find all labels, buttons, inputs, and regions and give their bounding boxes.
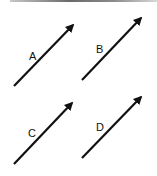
arrow-d: D [82, 97, 141, 158]
arrow-c-line [14, 103, 72, 164]
arrow-b-line [82, 18, 141, 80]
arrow-b: B [82, 18, 141, 80]
arrow-a-label: A [29, 50, 37, 62]
arrow-b-label: B [96, 43, 103, 55]
arrow-d-line [82, 97, 141, 158]
arrow-a: A [14, 25, 73, 86]
arrow-d-label: D [96, 121, 104, 133]
arrow-a-line [14, 25, 73, 86]
arrow-diagram: A B C D [0, 0, 157, 176]
arrow-c: C [14, 103, 72, 164]
arrow-c-label: C [28, 127, 36, 139]
